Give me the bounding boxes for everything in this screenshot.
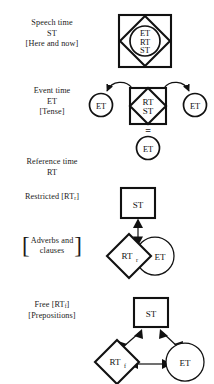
label-line-2: RT — [0, 168, 104, 179]
diamond-rt-free — [95, 340, 139, 384]
bracket-right: ] — [74, 236, 82, 257]
bracket-line-2: clauses — [31, 246, 74, 256]
equals-sign: = — [145, 125, 151, 136]
bracket-inner: Adverbs and clauses — [30, 236, 75, 257]
circle-bottom-et — [137, 137, 160, 160]
label-free-main: Free [RT — [35, 300, 65, 309]
bracket-line-1: Adverbs and — [31, 236, 74, 246]
diagram-canvas: Speech time ST [Here and now] ET RT ST E… — [0, 0, 214, 384]
square-st — [121, 188, 155, 218]
circle-inner — [130, 26, 160, 56]
circle-et — [166, 343, 204, 381]
label-free-tail: ] — [67, 300, 70, 309]
label-line-2: ST — [0, 29, 104, 40]
arrow-left-curve — [107, 82, 132, 91]
label-restricted: Restricted [RTr] — [0, 192, 104, 203]
label-speech-time: Speech time ST [Here and now] — [0, 18, 104, 50]
label-free: Free [RTf] [Prepositions] — [0, 300, 104, 321]
arrow-right-curve — [164, 82, 189, 91]
bracketed-group: [ Adverbs and clauses ] — [22, 236, 82, 257]
figure-event-time: RT ST ET ET = ET — [86, 72, 210, 150]
label-line-1: Reference time — [0, 157, 104, 168]
figure-free: ST — [94, 286, 206, 384]
bracket-left: [ — [22, 236, 30, 257]
label-restricted-tail: ] — [76, 192, 79, 201]
figure-speech-time: ET RT ST — [114, 10, 176, 72]
label-free-text: Free [RTf] — [0, 300, 104, 311]
circle-left-et — [90, 94, 113, 117]
label-adverbs-clauses: [ Adverbs and clauses ] — [0, 236, 104, 257]
label-line-1: Speech time — [0, 18, 104, 29]
label-line-3: [Here and now] — [0, 39, 104, 50]
circle-right-et — [184, 94, 207, 117]
label-reference-time: Reference time RT — [0, 157, 104, 178]
figure-restricted: ST ET RT r — [100, 184, 192, 280]
square-st — [134, 298, 168, 327]
label-restricted-text: Restricted [RTr] — [0, 192, 104, 203]
label-free-bracket: [Prepositions] — [0, 311, 104, 322]
label-restricted-main: Restricted [RT — [25, 192, 74, 201]
